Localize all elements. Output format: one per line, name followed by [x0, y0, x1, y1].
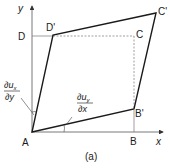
- figure-caption: (a): [85, 151, 97, 162]
- point-b-prime-label: B': [135, 108, 144, 119]
- point-d-prime-label: D': [46, 22, 55, 33]
- point-c-label: C: [136, 29, 143, 40]
- svg-text:∂ux: ∂ux: [4, 80, 17, 91]
- point-a-label: A: [22, 137, 29, 148]
- shear-y-fraction: ∂uy ∂x: [77, 92, 93, 114]
- point-c-prime-label: C': [158, 6, 167, 17]
- svg-text:∂uy: ∂uy: [77, 92, 90, 103]
- svg-text:∂y: ∂y: [5, 92, 14, 102]
- shear-angle-y-arc: [64, 125, 65, 132]
- point-d-label: D: [18, 31, 25, 42]
- y-axis-label: y: [17, 3, 24, 14]
- shear-deformation-diagram: y x D D' C' C B' B A (a) ∂ux ∂y ∂uy ∂x: [0, 0, 170, 168]
- svg-text:∂x: ∂x: [78, 104, 87, 114]
- point-b-label: B: [130, 136, 137, 147]
- x-axis-label: x: [155, 136, 162, 147]
- shear-x-fraction: ∂ux ∂y: [4, 80, 20, 102]
- shear-angle-x-arc: [32, 112, 36, 113]
